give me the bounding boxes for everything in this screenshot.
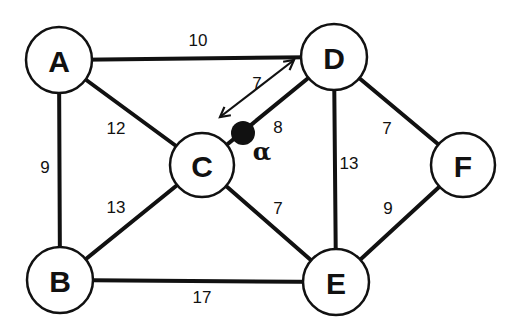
alpha-label: α: [253, 137, 271, 166]
node-f: F: [431, 133, 495, 197]
distance-label: 7: [252, 74, 261, 93]
node-b: B: [27, 247, 93, 313]
node-c: C: [170, 133, 234, 197]
distance-arrow: 7: [220, 60, 294, 117]
alpha-dot-icon: [231, 121, 255, 145]
edge-weight-b-e: 17: [193, 288, 212, 307]
edge-weight-c-d: 8: [273, 118, 282, 137]
nodes-layer: ABCDEF: [26, 24, 495, 315]
edge-weight-a-b: 9: [40, 158, 49, 177]
node-a: A: [26, 27, 92, 93]
node-label: F: [454, 150, 472, 183]
node-e: E: [303, 249, 369, 315]
node-label: A: [48, 45, 70, 78]
node-label: C: [191, 150, 213, 183]
edge-weight-d-e: 13: [340, 154, 359, 173]
node-label: E: [326, 267, 346, 300]
node-d: D: [301, 24, 367, 90]
alpha-marker: α: [231, 121, 271, 166]
edge-b-e: [60, 280, 336, 282]
node-label: D: [323, 42, 345, 75]
edge-weight-e-f: 9: [383, 199, 392, 218]
edge-weight-c-e: 7: [273, 199, 282, 218]
edge-weight-b-c: 13: [107, 198, 126, 217]
edge-weight-d-f: 7: [382, 119, 391, 138]
edge-weight-a-c: 12: [107, 119, 126, 138]
edge-weight-a-d: 10: [189, 31, 208, 50]
graph-diagram: 7 ABCDEF 101291317781379 α: [0, 0, 513, 331]
node-label: B: [49, 265, 71, 298]
